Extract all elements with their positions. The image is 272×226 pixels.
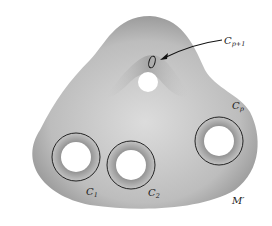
label-c-p: Cp: [232, 101, 244, 113]
hole-c2: [107, 141, 155, 189]
label-c-p-plus-1: Cp+1: [224, 36, 245, 48]
hole-cp: [195, 117, 243, 165]
label-c-2: C2: [148, 188, 160, 200]
label-c-1: C1: [86, 187, 98, 199]
label-surface-m-prime: M′: [232, 196, 245, 206]
hole-c1: [52, 133, 100, 181]
surface-figure: [0, 0, 272, 226]
surface-diagram: Cp+1 Cp C1 C2 M′: [0, 0, 272, 226]
